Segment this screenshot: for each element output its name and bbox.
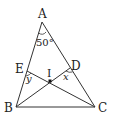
angle-label-x: x (63, 71, 69, 82)
segment-bd (16, 68, 70, 107)
angle-arc-a (39, 32, 47, 34)
label-b: B (4, 101, 13, 115)
label-c: C (98, 101, 107, 115)
angle-label-a: 50° (36, 37, 54, 48)
label-i: I (47, 67, 51, 80)
segment-ce (27, 71, 95, 107)
triangle-diagram: A B C D E I 50° y x (0, 0, 118, 123)
label-a: A (37, 7, 47, 21)
angle-label-y: y (25, 73, 32, 84)
side-ac (42, 22, 95, 107)
label-d: D (71, 59, 81, 73)
label-e: E (15, 62, 24, 76)
